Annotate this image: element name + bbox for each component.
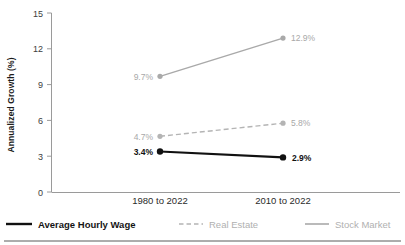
- data-point-stock-market-2010: [280, 36, 285, 41]
- data-label-stock-market-1980: 9.7%: [134, 72, 154, 82]
- data-label-real-estate-2010: 5.8%: [291, 118, 311, 128]
- line-chart: Annualized Growth (%) 15 12 9 6 3 0 9.7%…: [0, 0, 405, 245]
- y-axis-title: Annualized Growth (%): [6, 57, 16, 152]
- y-tick-label-9: 9: [38, 80, 43, 90]
- chart-container: Annualized Growth (%) 15 12 9 6 3 0 9.7%…: [0, 0, 405, 245]
- y-tick-label-15: 15: [33, 9, 43, 19]
- data-point-average-hourly-wage-1980: [157, 148, 163, 154]
- data-label-average-hourly-wage-2010: 2.9%: [292, 153, 312, 163]
- y-tick-label-12: 12: [33, 44, 43, 54]
- y-tick-label-6: 6: [38, 116, 43, 126]
- series-line-real-estate: [160, 123, 283, 136]
- series-line-average-hourly-wage: [160, 152, 283, 158]
- y-tick-label-3: 3: [38, 152, 43, 162]
- data-point-stock-market-1980: [157, 74, 162, 79]
- data-point-real-estate-1980: [157, 134, 162, 139]
- legend-label-stock-market: Stock Market: [335, 219, 391, 230]
- y-tick-label-0: 0: [38, 188, 43, 198]
- data-point-real-estate-2010: [280, 121, 285, 126]
- data-label-real-estate-1980: 4.7%: [134, 132, 154, 142]
- legend-label-average-hourly-wage: Average Hourly Wage: [38, 219, 136, 230]
- data-label-stock-market-2010: 12.9%: [291, 33, 316, 43]
- series-line-stock-market: [160, 38, 283, 76]
- data-point-average-hourly-wage-2010: [280, 154, 286, 160]
- legend-label-real-estate: Real Estate: [209, 219, 258, 230]
- x-tick-label-0: 1980 to 2022: [132, 195, 187, 206]
- data-label-average-hourly-wage-1980: 3.4%: [134, 147, 154, 157]
- x-tick-label-1: 2010 to 2022: [255, 195, 310, 206]
